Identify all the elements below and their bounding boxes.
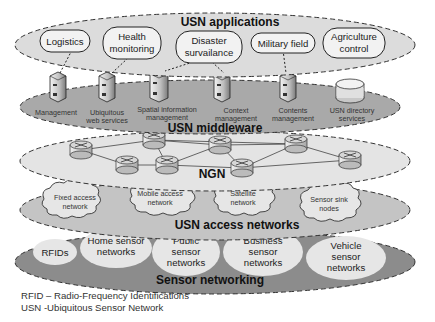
- app-item-disaster-l2: survailance: [185, 47, 234, 58]
- layer-title-sensor: Sensor networking: [156, 273, 264, 287]
- access-item-sink-l2: nodes: [319, 204, 339, 213]
- layer-title-middleware: USN middleware: [168, 121, 263, 135]
- sensor-item-public-l3: networks: [167, 257, 206, 268]
- app-item-logistics: Logistics: [46, 36, 84, 47]
- router-icon: [231, 159, 253, 177]
- layer-title-applications: USN applications: [181, 15, 280, 29]
- router-icon: [70, 141, 92, 159]
- sensor-item-business-l2: sensor: [249, 246, 279, 257]
- sensor-item-home-l2: networks: [97, 246, 136, 257]
- layer-title-access: USN access networks: [175, 218, 300, 232]
- router-icon: [209, 136, 231, 154]
- access-item-mobile-l2: network: [147, 198, 173, 207]
- sensor-item-vehicle-l2: sensor: [332, 251, 362, 262]
- router-icon: [143, 131, 165, 149]
- router-icon: [285, 135, 307, 153]
- middleware-item-ubiquitous-l2: web services: [85, 116, 128, 125]
- router-icon: [339, 151, 361, 169]
- sensor-item-public-l2: sensor: [172, 246, 202, 257]
- middleware-item-management: Management: [35, 108, 77, 117]
- sensor-item-vehicle-l3: networks: [327, 262, 366, 273]
- router-icon: [156, 156, 178, 174]
- legend-rfid: RFID – Radio-Frequency Identifications: [21, 290, 189, 301]
- layer-middleware: Management Ubiquitous web services Spati…: [20, 70, 400, 135]
- layer-title-ngn: NGN: [199, 167, 226, 181]
- sensor-item-business-l3: networks: [244, 257, 283, 268]
- access-item-satellite-l2: network: [230, 198, 256, 207]
- app-item-health: Health: [118, 31, 146, 42]
- usn-architecture-diagram: RFIDs Home sensor networks Public sensor…: [0, 0, 435, 322]
- access-item-sink: Sensor sink: [310, 195, 348, 204]
- access-item-fixed: Fixed access: [54, 193, 96, 202]
- access-item-fixed-l2: network: [62, 202, 88, 211]
- database-icon: [336, 79, 364, 103]
- layer-ngn: NGN: [20, 131, 410, 191]
- legend-usn: USN -Ubiquitous Sensor Network: [21, 302, 163, 313]
- app-item-disaster: Disaster: [191, 35, 227, 46]
- app-item-agriculture-l2: control: [340, 43, 369, 54]
- sensor-item-vehicle: Vehicle: [331, 240, 362, 251]
- sensor-item-rfids: RFIDs: [41, 247, 68, 258]
- server-icon: [50, 72, 66, 102]
- app-item-military: Military field: [258, 38, 309, 49]
- layer-applications: Logistics Health monitoring Disaster sur…: [15, 13, 415, 77]
- middleware-item-contents-l2: management: [272, 114, 314, 123]
- server-icon: [99, 72, 115, 102]
- middleware-item-directory-l2: services: [339, 114, 366, 123]
- router-icon: [116, 156, 138, 174]
- app-item-agriculture: Agriculture: [331, 31, 377, 42]
- app-item-health-l2: monitoring: [110, 43, 155, 54]
- server-icon: [280, 72, 296, 102]
